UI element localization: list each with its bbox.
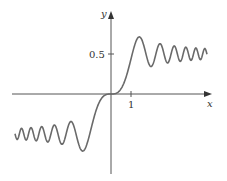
y-axis-label: y — [100, 8, 107, 19]
y-axis-arrow-icon — [108, 11, 114, 19]
x-axis-arrow-icon — [204, 91, 212, 97]
y-tick-label: 0.5 — [89, 49, 105, 60]
x-tick-label: 1 — [128, 99, 134, 110]
chart-canvas: 1 0.5 x y — [0, 0, 227, 181]
x-axis-label: x — [207, 98, 213, 109]
